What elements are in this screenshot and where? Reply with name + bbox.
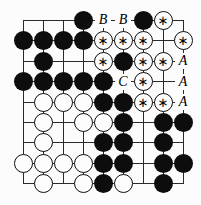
- go-board: BB∗∗∗∗∗∗∗∗AC∗A∗∗A: [0, 0, 201, 205]
- white-stone: [94, 113, 113, 132]
- star-mark-icon: ∗: [98, 34, 109, 47]
- white-stone: [14, 154, 33, 173]
- black-stone: [74, 31, 93, 50]
- black-stone: [154, 174, 173, 193]
- point-label-A: A: [175, 74, 191, 90]
- marked-white-stone: ∗: [114, 31, 133, 50]
- white-stone: [34, 113, 53, 132]
- star-mark-icon: ∗: [138, 75, 149, 88]
- black-stone: [54, 31, 73, 50]
- marked-white-stone: ∗: [94, 31, 113, 50]
- marked-white-stone: ∗: [134, 52, 153, 71]
- star-mark-icon: ∗: [178, 34, 189, 47]
- star-mark-icon: ∗: [138, 34, 149, 47]
- black-stone: [114, 133, 133, 152]
- black-stone: [94, 133, 113, 152]
- point-label-C: C: [115, 74, 131, 90]
- marked-white-stone: ∗: [134, 72, 153, 91]
- star-mark-icon: ∗: [138, 96, 149, 109]
- black-stone: [154, 154, 173, 173]
- white-stone: [34, 174, 53, 193]
- black-stone: [114, 154, 133, 173]
- marked-white-stone: ∗: [154, 93, 173, 112]
- point-label-B: B: [95, 12, 111, 28]
- white-stone: [54, 154, 73, 173]
- white-stone: [74, 93, 93, 112]
- black-stone: [14, 72, 33, 91]
- star-mark-icon: ∗: [158, 14, 169, 27]
- marked-white-stone: ∗: [134, 31, 153, 50]
- black-stone: [74, 72, 93, 91]
- marked-white-stone: ∗: [174, 31, 193, 50]
- white-stone: [74, 174, 93, 193]
- star-mark-icon: ∗: [98, 55, 109, 68]
- marked-white-stone: ∗: [154, 11, 173, 30]
- marked-white-stone: ∗: [154, 52, 173, 71]
- star-mark-icon: ∗: [158, 55, 169, 68]
- black-stone: [94, 72, 113, 91]
- black-stone: [14, 31, 33, 50]
- marked-white-stone: ∗: [94, 52, 113, 71]
- black-stone: [114, 93, 133, 112]
- white-stone: [74, 154, 93, 173]
- white-stone: [74, 113, 93, 132]
- black-stone: [174, 154, 193, 173]
- black-stone: [114, 113, 133, 132]
- star-mark-icon: ∗: [138, 55, 149, 68]
- point-label-B: B: [115, 12, 131, 28]
- black-stone: [34, 52, 53, 71]
- black-stone: [94, 174, 113, 193]
- black-stone: [54, 72, 73, 91]
- black-stone: [154, 113, 173, 132]
- black-stone: [34, 31, 53, 50]
- white-stone: [114, 174, 133, 193]
- white-stone: [54, 93, 73, 112]
- point-label-A: A: [175, 53, 191, 69]
- point-label-A: A: [175, 94, 191, 110]
- black-stone: [114, 52, 133, 71]
- black-stone: [174, 113, 193, 132]
- black-stone: [94, 93, 113, 112]
- white-stone: [34, 93, 53, 112]
- star-mark-icon: ∗: [118, 34, 129, 47]
- black-stone: [74, 11, 93, 30]
- marked-white-stone: ∗: [134, 93, 153, 112]
- black-stone: [154, 133, 173, 152]
- white-stone: [34, 133, 53, 152]
- black-stone: [34, 72, 53, 91]
- star-mark-icon: ∗: [158, 96, 169, 109]
- black-stone: [94, 154, 113, 173]
- black-stone: [134, 11, 153, 30]
- white-stone: [34, 154, 53, 173]
